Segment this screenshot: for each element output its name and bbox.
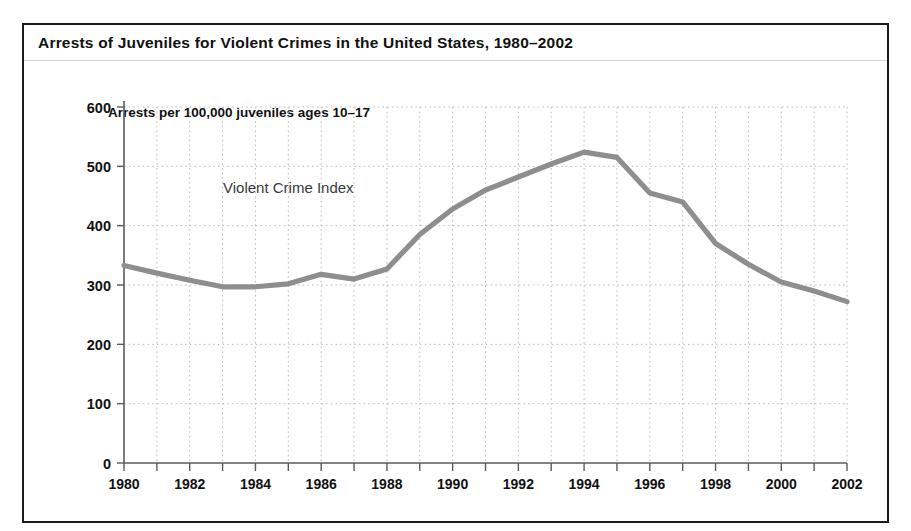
x-tick-label: 1988 — [371, 476, 402, 492]
x-tick-label: 1996 — [634, 476, 665, 492]
y-tick-label: 200 — [87, 337, 111, 353]
x-tick-label: 1992 — [503, 476, 534, 492]
chart-figure: Arrests of Juveniles for Violent Crimes … — [22, 23, 889, 523]
line-chart-svg: 0100200300400500600 19801982198419861988… — [24, 25, 887, 521]
x-tick-label: 1980 — [108, 476, 139, 492]
y-tick-label: 500 — [87, 159, 111, 175]
series-annotation-label: Violent Crime Index — [223, 179, 354, 196]
x-tick-label: 1990 — [437, 476, 468, 492]
annotations-group: Violent Crime Index — [223, 179, 354, 196]
x-tick-label: 2000 — [766, 476, 797, 492]
plot-area: 0100200300400500600 19801982198419861988… — [24, 25, 887, 521]
y-tick-label: 100 — [87, 396, 111, 412]
figure-bottom-strip — [22, 523, 889, 531]
y-tick-label: 0 — [103, 456, 111, 472]
y-tick-label: 600 — [87, 100, 111, 116]
y-tick-label: 300 — [87, 278, 111, 294]
x-tick-label: 1982 — [174, 476, 205, 492]
violent-crime-index-line — [124, 152, 847, 302]
x-tick-label: 1986 — [306, 476, 337, 492]
x-tick-label: 1984 — [240, 476, 271, 492]
x-tick-label: 1994 — [569, 476, 600, 492]
y-tick-label: 400 — [87, 218, 111, 234]
y-tick-labels-group: 0100200300400500600 — [87, 100, 111, 472]
x-tick-label: 1998 — [700, 476, 731, 492]
x-tick-label: 2002 — [831, 476, 862, 492]
x-tick-labels-group: 1980198219841986198819901992199419961998… — [108, 476, 862, 492]
